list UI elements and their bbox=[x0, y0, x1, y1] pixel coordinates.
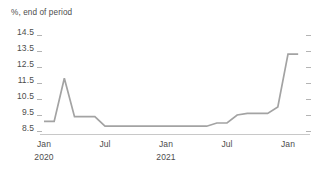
x-tick-label: Jan bbox=[268, 139, 308, 149]
x-tick-label: Jul bbox=[207, 139, 247, 149]
x-tick-label: Jul bbox=[85, 139, 125, 149]
chart-container: %, end of period 14.5 13.5 12.5 11.5 10.… bbox=[0, 0, 322, 170]
x-tick-sublabel: 2021 bbox=[146, 152, 186, 162]
x-tick-label: Jan bbox=[146, 139, 186, 149]
x-tick-label: Jan bbox=[24, 139, 64, 149]
x-tick-sublabel: 2020 bbox=[24, 152, 64, 162]
data-series-line bbox=[44, 54, 298, 126]
